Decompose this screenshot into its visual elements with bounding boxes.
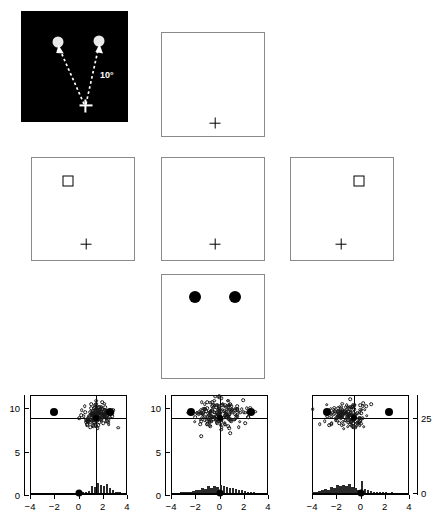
x-tick [171,495,172,499]
two-target-display [161,274,265,379]
scatter-point [90,407,94,411]
scatter-point [228,408,232,412]
x-tick-label: 0 [76,501,81,512]
x-tick [244,495,245,499]
x-tick [361,495,362,499]
y-tick [165,408,170,409]
scatter-point [84,410,88,414]
scatter-point [233,418,237,422]
y-tick [24,495,29,496]
scatter-point [83,404,87,408]
x-tick [385,495,386,499]
plot-left: −4−20240510 [0,385,141,520]
scatter-point [236,407,240,411]
y-tick [24,408,29,409]
x-tick [220,495,221,499]
scatter-point [101,400,105,404]
angle-label: 10° [100,70,114,80]
histogram-bar [118,492,121,493]
x-tick [312,495,313,499]
marker-right-target [106,408,114,416]
y-tick-right [413,493,418,494]
scatter-point [357,417,361,421]
scatter-point [243,422,247,426]
scatter-point [237,425,241,429]
scatter-point [353,403,357,407]
scatter-point [323,419,327,423]
x-tick-label: −4 [166,501,177,512]
marker-left-target [50,408,58,416]
x-tick [195,495,196,499]
plot-center: −4−20240510 [141,385,282,520]
scatter-point [193,420,197,424]
x-tick [409,495,410,499]
scatter-point [331,411,335,415]
scatter-point [346,425,350,429]
y-tick-label: 10 [139,403,161,414]
scatter-point [216,408,220,412]
y-tick-label: 0 [139,490,161,501]
x-tick [54,495,55,499]
histogram-bar [391,492,394,493]
fixation-cross [81,239,92,250]
marker-left-target [323,408,331,416]
y-tick [165,495,170,496]
scatter-point [117,426,121,430]
x-tick-label: 4 [265,501,270,512]
scatter-point [200,411,204,415]
x-tick [79,495,80,499]
scatter-point [204,415,208,419]
cue-right-display [290,157,394,261]
scatter-point [329,422,333,426]
scatter-point [82,414,86,418]
saccade-arrows [22,12,129,123]
scatter-point [194,415,198,419]
scatter-point [207,417,211,421]
x-tick-label: 4 [124,501,129,512]
x-tick-label: −2 [190,501,201,512]
scatter-point [89,418,93,422]
x-tick-label: 0 [217,501,222,512]
scatter-point [365,414,369,418]
scatter-point [242,398,246,402]
scatter-point [325,403,329,407]
scatter-point [80,409,84,413]
scatter-point [102,415,106,419]
scatter-point [199,423,203,427]
scatter-point [227,426,231,430]
scatter-point [77,417,81,421]
no-cue-display [161,157,265,261]
scatter-point [369,402,373,406]
y-tick-label-right: 0 [421,487,426,498]
cue-left-display [31,157,135,261]
right-target-dot [229,291,241,303]
scatter-point [361,401,365,405]
scatter-point [97,421,101,425]
scatter-point [213,411,217,415]
scatter-point [92,421,96,425]
y-tick-label: 5 [0,446,20,457]
scatter-point [341,408,345,412]
scatter-point [98,411,102,415]
y-tick [24,452,29,453]
scatter-point [341,420,345,424]
y-tick-label: 0 [0,490,20,501]
y-axis-left [165,395,166,495]
y-tick-label-right: 25 [421,413,432,424]
scatter-point [88,425,92,429]
scatter-point [208,424,212,428]
x-tick-label: 0 [358,501,363,512]
x-tick-label: −2 [49,501,60,512]
scatter-point [358,408,362,412]
scatter-point [342,427,346,431]
scatter-point [342,413,346,417]
x-tick-label: −2 [331,501,342,512]
marker-right-target [385,408,393,416]
scatter-point [340,402,344,406]
scatter-point [212,405,216,409]
scatter-point [311,407,315,411]
fixation-cross [80,100,91,111]
fixation-cross [336,239,347,250]
scatter-point [199,418,203,422]
